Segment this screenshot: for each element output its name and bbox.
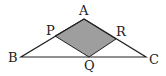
label-q: Q — [84, 58, 95, 73]
label-c: C — [149, 52, 159, 67]
label-b: B — [8, 50, 18, 65]
label-p: P — [46, 23, 55, 38]
triangle-diagram: A P R B C Q — [0, 0, 166, 76]
label-a: A — [78, 3, 89, 18]
label-r: R — [116, 24, 127, 39]
shaded-quadrilateral-apqr — [55, 19, 116, 57]
